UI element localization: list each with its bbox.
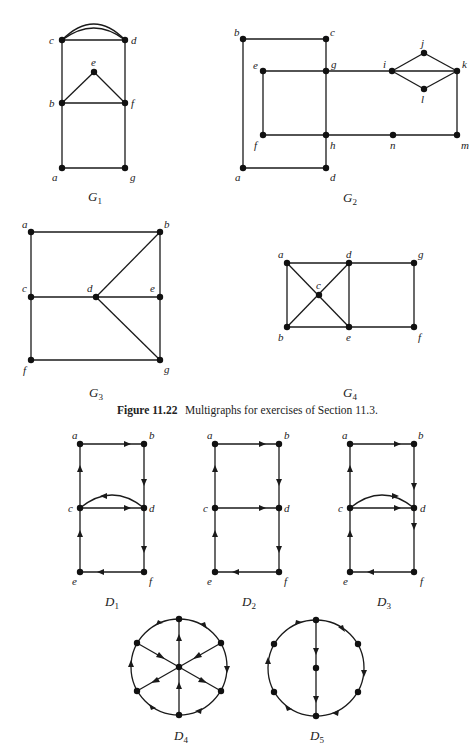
graph-g3: a b c d e f g G3 bbox=[22, 218, 170, 402]
vertex-a bbox=[347, 441, 353, 447]
vertex-e bbox=[212, 569, 218, 575]
edge-e-f bbox=[94, 72, 125, 103]
label-b: b bbox=[164, 218, 170, 230]
vertex-b bbox=[141, 441, 147, 447]
label-g: g bbox=[130, 171, 136, 183]
label-d: d bbox=[330, 171, 336, 183]
vertex-upper-right bbox=[355, 641, 361, 647]
label-e: e bbox=[253, 59, 258, 71]
vertex-g bbox=[122, 165, 128, 171]
digraph-d5: D5 bbox=[265, 617, 367, 745]
vertex-c bbox=[316, 292, 322, 298]
label-e: e bbox=[207, 575, 212, 587]
arrowhead bbox=[285, 705, 292, 711]
vertex-f bbox=[411, 569, 417, 575]
vertex-center bbox=[313, 665, 319, 671]
arrowhead bbox=[124, 441, 131, 447]
arc-d-c-curved bbox=[80, 495, 144, 508]
vertex-b bbox=[157, 229, 163, 235]
vertex-hub bbox=[176, 664, 182, 670]
arrowhead bbox=[411, 523, 417, 530]
vertex-d bbox=[93, 294, 99, 300]
vertex-f bbox=[276, 569, 282, 575]
vertex-n bbox=[390, 132, 396, 138]
vertex-b bbox=[276, 441, 282, 447]
arrowhead bbox=[232, 569, 239, 575]
arrowhead bbox=[394, 505, 401, 511]
vertex-a bbox=[240, 165, 246, 171]
label-c: c bbox=[22, 282, 27, 294]
arrowhead bbox=[411, 483, 417, 490]
label-e: e bbox=[150, 282, 155, 294]
label-d: d bbox=[346, 248, 352, 260]
label-n: n bbox=[390, 139, 396, 151]
vertex-upper-right bbox=[218, 640, 224, 646]
graph-g4: a d g c b e f G4 bbox=[278, 248, 424, 402]
label-e: e bbox=[346, 331, 351, 343]
digraph-d2: a b c d e f D2 bbox=[203, 429, 290, 611]
label-f: f bbox=[418, 331, 423, 343]
label-a: a bbox=[22, 218, 28, 230]
edge-d-g bbox=[96, 297, 160, 360]
vertex-d bbox=[346, 260, 352, 266]
graph-g2: b c e g i j k l f h n m a d G2 bbox=[234, 26, 469, 207]
vertex-g bbox=[411, 260, 417, 266]
digraph-d1: a b c d e f D1 bbox=[68, 429, 155, 611]
arrowhead bbox=[259, 505, 266, 511]
label-c: c bbox=[338, 502, 343, 514]
label-a: a bbox=[235, 171, 241, 183]
arrowhead bbox=[313, 696, 319, 703]
label-d: d bbox=[284, 502, 290, 514]
digraph-d4: D4 bbox=[128, 616, 230, 745]
label-c: c bbox=[330, 26, 335, 38]
vertex-c bbox=[323, 36, 329, 42]
vertex-a bbox=[28, 229, 34, 235]
vertex-d bbox=[411, 505, 417, 511]
label-i: i bbox=[383, 58, 386, 70]
arrowhead bbox=[265, 657, 271, 664]
graph-title-g4: G4 bbox=[343, 385, 357, 402]
label-a: a bbox=[72, 429, 78, 441]
vertex-c bbox=[28, 294, 34, 300]
label-d: d bbox=[420, 502, 426, 514]
graph-title-d1: D1 bbox=[104, 594, 119, 611]
vertex-lower-right bbox=[218, 688, 224, 694]
vertex-i bbox=[389, 68, 395, 74]
label-d: d bbox=[87, 282, 93, 294]
label-b: b bbox=[278, 331, 284, 343]
label-e: e bbox=[72, 575, 77, 587]
vertex-d bbox=[141, 505, 147, 511]
arrowhead bbox=[97, 569, 104, 575]
arrowhead bbox=[276, 546, 282, 553]
label-b: b bbox=[418, 429, 424, 441]
graph-g1: c d e b f a g G1 bbox=[49, 24, 137, 206]
vertex-m bbox=[454, 132, 460, 138]
arrowhead bbox=[212, 530, 218, 537]
arrowhead bbox=[77, 530, 83, 537]
label-g: g bbox=[331, 58, 337, 70]
vertex-bottom bbox=[313, 713, 319, 719]
label-a: a bbox=[52, 171, 58, 183]
label-c: c bbox=[49, 34, 54, 46]
arrowhead bbox=[156, 652, 165, 659]
label-b: b bbox=[234, 26, 240, 38]
vertex-k bbox=[454, 68, 460, 74]
label-l: l bbox=[421, 93, 424, 105]
vertex-c bbox=[212, 505, 218, 511]
vertex-a bbox=[59, 165, 65, 171]
graph-title-d2: D2 bbox=[241, 594, 256, 611]
vertex-e bbox=[346, 324, 352, 330]
arrowhead bbox=[259, 441, 266, 447]
edge-c-d-arc-inner bbox=[62, 28, 125, 40]
label-b: b bbox=[49, 97, 55, 109]
vertex-b bbox=[284, 324, 290, 330]
arrowhead bbox=[347, 530, 353, 537]
vertex-a bbox=[212, 441, 218, 447]
vertex-c bbox=[59, 37, 65, 43]
arrowhead bbox=[276, 479, 282, 486]
label-k: k bbox=[462, 58, 468, 70]
label-d: d bbox=[149, 502, 155, 514]
vertex-b bbox=[411, 441, 417, 447]
label-a: a bbox=[207, 429, 213, 441]
figure-caption: Figure 11.22 Multigraphs for exercises o… bbox=[117, 404, 378, 417]
